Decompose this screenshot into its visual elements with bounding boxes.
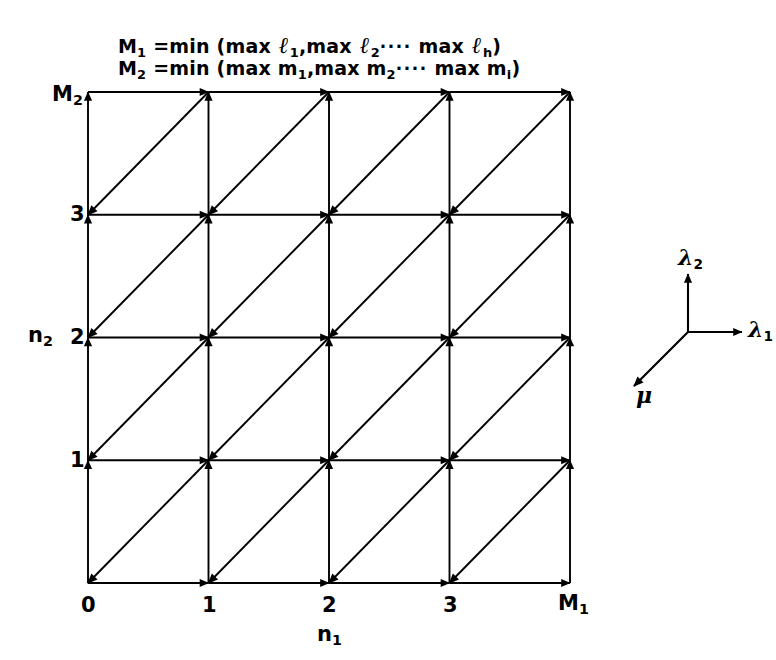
formula-m2-close: ) bbox=[511, 57, 520, 79]
formula-m2-dots: ···· bbox=[396, 59, 428, 79]
triad-label-mu: μ bbox=[636, 384, 652, 406]
formula-m2-term2: m bbox=[367, 57, 387, 79]
y-axis-end-label: M2 bbox=[52, 84, 83, 107]
edge-diag bbox=[329, 460, 450, 583]
formula-m2-term3: m bbox=[487, 57, 507, 79]
edge-diag bbox=[209, 338, 330, 461]
formula-m1-lhs-sub: 1 bbox=[137, 45, 146, 60]
x-axis-name-text: n bbox=[317, 622, 332, 646]
edge-diag bbox=[450, 338, 571, 461]
formula-m2-eq: =min (max bbox=[153, 57, 271, 79]
formula-m1-eq: =min (max bbox=[153, 35, 271, 57]
y-tick-3: 3 bbox=[70, 204, 85, 225]
formula-line-m1: M1 =min (max ℓ1,max ℓ2···· max ℓh) bbox=[118, 33, 501, 60]
y-axis-name: n2 bbox=[28, 325, 53, 348]
edge-diag bbox=[450, 215, 571, 338]
y-axis-name-sub: 2 bbox=[43, 333, 53, 349]
formula-m1-max3: max bbox=[419, 35, 464, 57]
x-axis-end-label-text: M bbox=[558, 591, 579, 615]
formula-m2-term2-sub: 2 bbox=[387, 67, 396, 82]
y-axis-end-label-text: M bbox=[52, 82, 73, 106]
triad-label-lambda1: λ1 bbox=[748, 318, 773, 344]
x-axis-end-label-sub: 1 bbox=[579, 601, 589, 617]
triad-label-lambda1-symbol: λ bbox=[748, 316, 763, 342]
formula-line-m2: M2 =min (max m1,max m2···· max mi) bbox=[118, 59, 520, 82]
edge-diag bbox=[329, 338, 450, 461]
x-axis-name-sub: 1 bbox=[332, 632, 342, 648]
y-axis-end-label-sub: 2 bbox=[73, 92, 83, 108]
edge-diag bbox=[450, 460, 571, 583]
x-tick-0: 0 bbox=[81, 595, 96, 616]
formula-m2-term1: m bbox=[278, 57, 298, 79]
edge-diag bbox=[209, 92, 330, 215]
formula-m2-term1-sub: 1 bbox=[298, 67, 307, 82]
edge-diag bbox=[329, 92, 450, 215]
edge-diag bbox=[88, 215, 209, 338]
formula-m2-lhs-sub: 2 bbox=[137, 67, 146, 82]
edge-diag bbox=[329, 215, 450, 338]
triad-label-mu-symbol: μ bbox=[636, 382, 652, 408]
formula-m1-sep1: ,max bbox=[299, 35, 352, 57]
triad-label-lambda2: λ2 bbox=[678, 246, 703, 272]
y-tick-1: 1 bbox=[70, 450, 85, 471]
triad-label-lambda2-sub: 2 bbox=[693, 256, 702, 272]
figure-root: M1 =min (max ℓ1,max ℓ2···· max ℓh) M2 =m… bbox=[0, 0, 776, 660]
formula-m1-close: ) bbox=[492, 35, 501, 57]
x-tick-1: 1 bbox=[202, 595, 217, 616]
edge-diag bbox=[88, 338, 209, 461]
x-tick-3: 3 bbox=[443, 595, 458, 616]
triad-axis-mu bbox=[634, 332, 688, 386]
edge-diag bbox=[88, 460, 209, 583]
y-axis-name-text: n bbox=[28, 323, 43, 347]
x-axis-end-label: M1 bbox=[558, 593, 589, 616]
edge-diag bbox=[88, 92, 209, 215]
formula-m1-term2: ℓ bbox=[359, 31, 371, 58]
triad-label-lambda1-sub: 1 bbox=[763, 328, 772, 344]
lattice-grid-group bbox=[88, 92, 570, 583]
edge-diag bbox=[209, 460, 330, 583]
x-axis-name: n1 bbox=[317, 624, 342, 647]
formula-m2-lhs: M bbox=[118, 57, 137, 79]
formula-m1-term3: ℓ bbox=[471, 31, 483, 58]
formula-m2-sep1: ,max bbox=[307, 57, 360, 79]
formula-m1-dots: ···· bbox=[380, 37, 412, 57]
lattice-diagram-svg bbox=[0, 0, 776, 660]
formula-m1-lhs: M bbox=[118, 35, 137, 57]
coordinate-triad bbox=[634, 274, 742, 386]
y-tick-2: 2 bbox=[70, 327, 85, 348]
triad-label-lambda2-symbol: λ bbox=[678, 244, 693, 270]
x-tick-2: 2 bbox=[322, 595, 337, 616]
edge-diag bbox=[209, 215, 330, 338]
formula-m2-max3: max bbox=[434, 57, 479, 79]
formula-m1-term1: ℓ bbox=[278, 31, 290, 58]
edge-diag bbox=[450, 92, 571, 215]
